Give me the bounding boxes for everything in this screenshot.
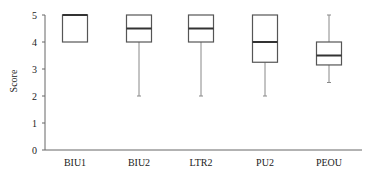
category-label-biu1: BIU1 <box>64 157 86 168</box>
box-plot-chart: 012345 BIU1BIU2LTR2PU2PEOU Score <box>0 0 374 173</box>
boxes <box>63 15 342 96</box>
y-tick-label: 3 <box>32 64 37 75</box>
y-tick-label: 4 <box>32 37 37 48</box>
box-ltr2 <box>189 15 214 96</box>
category-label-ltr2: LTR2 <box>190 157 213 168</box>
category-label-pu2: PU2 <box>256 157 274 168</box>
category-label-peou: PEOU <box>316 157 343 168</box>
y-tick-label: 2 <box>32 91 37 102</box>
y-tick-label: 5 <box>32 10 37 21</box>
y-tick-label: 0 <box>32 145 37 156</box>
y-axis-title: Score <box>8 69 19 92</box>
box-pu2 <box>253 15 278 96</box>
box-biu2 <box>127 15 152 96</box>
y-tick-label: 1 <box>32 118 37 129</box>
category-label-biu2: BIU2 <box>128 157 150 168</box>
box-biu1 <box>63 15 88 42</box>
category-labels: BIU1BIU2LTR2PU2PEOU <box>64 157 343 168</box>
iqr-box <box>253 15 278 62</box>
iqr-box <box>63 15 88 42</box>
iqr-box <box>317 42 342 65</box>
box-peou <box>317 15 342 83</box>
